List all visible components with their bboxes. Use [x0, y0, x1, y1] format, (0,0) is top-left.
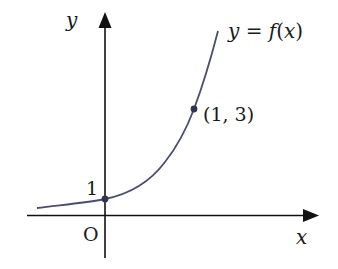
y-intercept-label: 1	[86, 177, 98, 199]
origin-label: O	[83, 223, 99, 245]
curve-label-rparen: )	[295, 19, 303, 43]
y-axis-arrow-icon	[99, 12, 112, 28]
curve-label-y: y	[227, 19, 240, 43]
curve-label-lparen: (	[276, 19, 284, 43]
point-1-3	[191, 106, 198, 113]
function-graph: y x O 1 (1, 3) y = f(x)	[0, 0, 338, 269]
exponential-curve	[37, 31, 218, 208]
curve-label-eq: =	[239, 19, 268, 43]
point-0-1	[102, 196, 109, 203]
point-label-1-3: (1, 3)	[203, 103, 254, 125]
curve-label: y = f(x)	[227, 19, 303, 43]
x-axis-label: x	[296, 225, 307, 249]
x-axis-arrow-icon	[303, 209, 319, 222]
curve-label-x: x	[284, 19, 295, 43]
y-axis-label: y	[65, 8, 78, 32]
